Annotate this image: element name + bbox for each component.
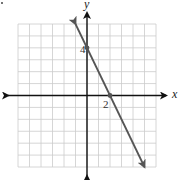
- coordinate-graph: [0, 0, 181, 180]
- x-intercept-label: 2: [103, 99, 109, 110]
- y-axis-label: y: [84, 0, 89, 10]
- y-intercept-label: 4: [80, 44, 86, 55]
- x-axis-label: x: [172, 88, 177, 100]
- axes: [8, 13, 166, 176]
